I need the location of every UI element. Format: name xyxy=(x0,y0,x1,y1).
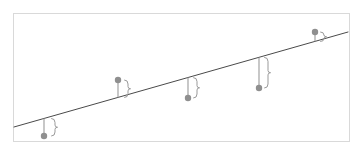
data-point-1 xyxy=(41,133,47,139)
residual-brace-3 xyxy=(194,78,200,98)
plot-canvas xyxy=(0,0,363,155)
data-points-group xyxy=(41,29,318,139)
residual-stems-group xyxy=(44,32,315,136)
data-point-5 xyxy=(312,29,318,35)
residual-braces-group xyxy=(52,32,327,136)
regression-line-group xyxy=(14,32,348,127)
data-point-4 xyxy=(256,85,262,91)
residual-brace-1 xyxy=(52,119,58,137)
figure-root: Each point is joined to the fitted line … xyxy=(0,0,363,155)
regression-line xyxy=(14,32,348,127)
data-point-2 xyxy=(115,77,121,83)
residual-brace-4 xyxy=(265,57,271,88)
data-point-3 xyxy=(185,95,191,101)
residual-brace-5 xyxy=(321,32,327,42)
